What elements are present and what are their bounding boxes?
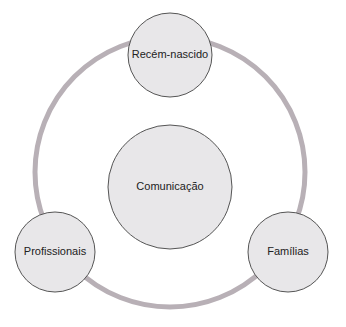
node-label: Profissionais — [24, 245, 87, 257]
node-recem-nascido: Recém-nascido — [128, 13, 212, 97]
diagram-canvas: Comunicação Recém-nascido Profissionais … — [0, 0, 346, 327]
node-familias: Famílias — [248, 212, 328, 292]
center-label: Comunicação — [136, 180, 203, 192]
node-label: Famílias — [267, 245, 309, 257]
center-node: Comunicação — [108, 125, 232, 249]
node-label: Recém-nascido — [132, 48, 208, 60]
node-profissionais: Profissionais — [15, 212, 95, 292]
